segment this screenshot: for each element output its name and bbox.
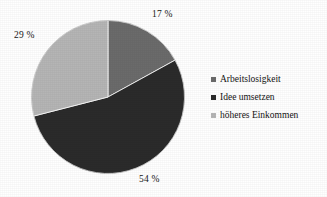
- legend-item-arbeitslosigkeit: Arbeitslosigkeit: [211, 71, 323, 87]
- legend-item-hoeheres-einkommen: höheres Einkommen: [211, 107, 323, 123]
- pie-chart-plot-area: [31, 20, 185, 174]
- legend-swatch-icon: [211, 113, 216, 118]
- legend-swatch-icon: [211, 95, 216, 100]
- legend-swatch-icon: [211, 77, 216, 82]
- legend-item-label: Idee umsetzen: [220, 92, 275, 103]
- chart-legend: Arbeitslosigkeit Idee umsetzen höheres E…: [211, 71, 323, 125]
- legend-item-label: Arbeitslosigkeit: [220, 74, 281, 85]
- pie-data-label-hoeheres-einkommen: 29 %: [14, 30, 35, 40]
- pie-data-label-idee-umsetzen: 54 %: [139, 174, 160, 184]
- legend-item-label: höheres Einkommen: [220, 110, 298, 121]
- pie-data-label-arbeitslosigkeit: 17 %: [152, 9, 173, 19]
- legend-item-idee-umsetzen: Idee umsetzen: [211, 89, 323, 105]
- pie-chart-figure: 17 % 54 % 29 % Arbeitslosigkeit Idee ums…: [0, 0, 327, 197]
- pie-slice-group: [31, 21, 184, 174]
- pie-chart-svg: [31, 20, 185, 174]
